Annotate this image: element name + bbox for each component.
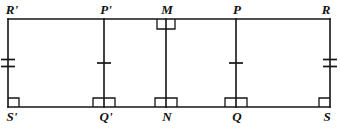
- vertex-label-n: N: [162, 110, 171, 123]
- right-angle-icon-s: [319, 98, 330, 107]
- vertex-label-r: R: [322, 3, 331, 16]
- rectangle-outline: [8, 19, 330, 107]
- vertex-label-m: M: [161, 3, 173, 16]
- vertex-label-p-prime: P': [100, 3, 112, 16]
- right-angle-icon-s-prime: [8, 98, 19, 107]
- vertex-label-s-prime: S': [7, 110, 18, 123]
- tick-marks: [1, 60, 337, 67]
- interior-segments: [104, 19, 236, 107]
- vertex-label-r-prime: R': [6, 3, 18, 16]
- vertex-label-p: P: [233, 3, 241, 16]
- vertex-label-q: Q: [232, 110, 241, 123]
- vertex-label-s: S: [323, 110, 330, 123]
- right-angle-markers: [8, 19, 330, 107]
- geometry-figure: R' P' M P R S' Q' N Q S: [0, 0, 340, 131]
- vertex-label-q-prime: Q': [100, 110, 113, 123]
